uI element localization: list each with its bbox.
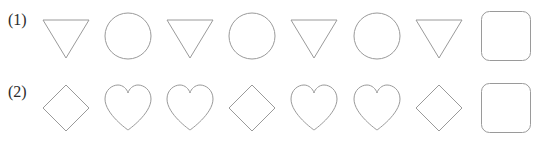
shape-triangle-down [40, 10, 92, 62]
row-label-2: (2) [8, 82, 38, 102]
sequence-row-1: (1) [0, 0, 542, 72]
shape-heart [288, 82, 340, 134]
answer-box-row-1[interactable] [480, 10, 532, 62]
shape-heart [351, 82, 403, 134]
worksheet: (1) (2) [0, 0, 542, 145]
shape-diamond [40, 82, 92, 134]
shape-triangle-down [288, 10, 340, 62]
shape-triangle-down [413, 10, 465, 62]
answer-box-row-2[interactable] [480, 82, 532, 134]
shape-heart [102, 82, 154, 134]
shape-diamond [226, 82, 278, 134]
shape-heart [164, 82, 216, 134]
shape-diamond [413, 82, 465, 134]
shape-circle [226, 10, 278, 62]
shape-circle [102, 10, 154, 62]
shape-triangle-down [164, 10, 216, 62]
sequence-row-2: (2) [0, 72, 542, 144]
row-label-1: (1) [8, 10, 38, 30]
shape-circle [351, 10, 403, 62]
